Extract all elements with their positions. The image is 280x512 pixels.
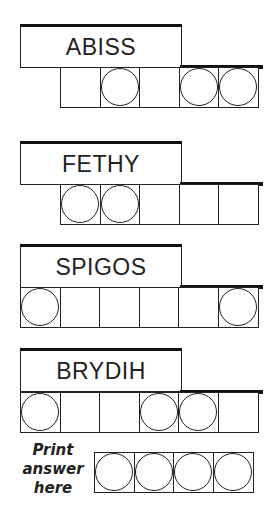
letter-cell[interactable] <box>218 184 259 225</box>
scrambled-word-1: ABISS <box>20 24 182 68</box>
letter-cell[interactable] <box>99 392 140 433</box>
circled-letter-cell[interactable] <box>218 287 259 328</box>
letter-cell[interactable] <box>99 287 140 328</box>
letter-cell[interactable] <box>139 184 180 225</box>
circled-letter-cell[interactable] <box>60 184 101 225</box>
answer-row-2 <box>60 184 259 225</box>
circled-letter-cell[interactable] <box>178 392 219 433</box>
letter-cell[interactable] <box>60 392 101 433</box>
label-line-1: Print <box>18 441 88 460</box>
scrambled-word-3: SPIGOS <box>20 244 182 288</box>
answer-cell[interactable] <box>134 452 175 493</box>
label-line-2: answer <box>18 460 88 479</box>
answer-cell[interactable] <box>173 452 214 493</box>
print-answer-label: Print answer here <box>18 441 88 498</box>
scrambled-word-2: FETHY <box>20 141 182 185</box>
letter-cell[interactable] <box>218 392 259 433</box>
letter-cell[interactable] <box>60 67 101 108</box>
answer-cell[interactable] <box>94 452 135 493</box>
label-line-3: here <box>18 479 88 498</box>
letter-cell[interactable] <box>178 287 219 328</box>
circled-letter-cell[interactable] <box>100 67 141 108</box>
scrambled-word-1-text: ABISS <box>66 34 136 61</box>
answer-cell[interactable] <box>213 452 254 493</box>
answer-row-4 <box>20 392 259 433</box>
circled-letter-cell[interactable] <box>20 392 61 433</box>
circled-letter-cell[interactable] <box>20 287 61 328</box>
answer-row-1 <box>60 67 259 108</box>
scrambled-word-4: BRYDIH <box>20 348 182 392</box>
circled-letter-cell[interactable] <box>179 67 220 108</box>
letter-cell[interactable] <box>139 67 180 108</box>
letter-cell[interactable] <box>60 287 101 328</box>
scrambled-word-2-text: FETHY <box>62 151 140 178</box>
circled-letter-cell[interactable] <box>100 184 141 225</box>
circled-letter-cell[interactable] <box>218 67 259 108</box>
circled-letter-cell[interactable] <box>139 392 180 433</box>
letter-cell[interactable] <box>179 184 220 225</box>
answer-row-3 <box>20 287 259 328</box>
scrambled-word-4-text: BRYDIH <box>56 358 146 385</box>
letter-cell[interactable] <box>139 287 180 328</box>
final-answer-row <box>94 452 254 493</box>
scrambled-word-3-text: SPIGOS <box>55 254 146 281</box>
